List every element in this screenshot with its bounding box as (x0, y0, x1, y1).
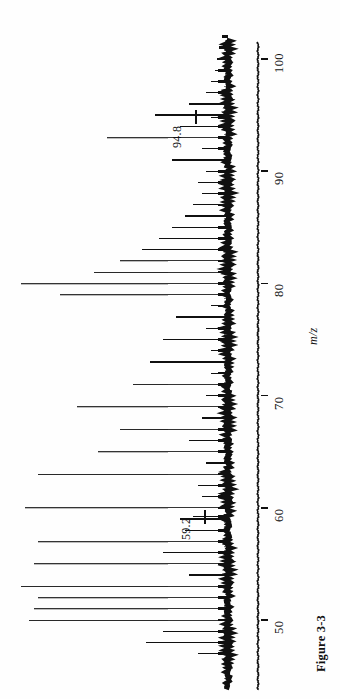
peak-annotation-94-8: 94.8 (170, 126, 185, 148)
axis-tick-label-100: 100 (272, 53, 287, 73)
axis-tick-label-80: 80 (272, 284, 287, 297)
axis-title-mz: m/z (306, 327, 321, 345)
figure-caption: Figure 3-3 (314, 615, 329, 672)
peak-annotation-59-2: 59.2 (179, 518, 194, 540)
figure-container: 1009080706050 m/z 94.8 59.2 Figure 3-3 (0, 0, 340, 699)
axis-tick-label-60: 60 (272, 508, 287, 521)
axis-tick-label-70: 70 (272, 396, 287, 409)
axis-tick-label-50: 50 (272, 621, 287, 634)
mass-spectrum-plot (0, 0, 340, 699)
axis-tick-label-90: 90 (272, 172, 287, 185)
spectrum-trace-layer (21, 37, 232, 688)
